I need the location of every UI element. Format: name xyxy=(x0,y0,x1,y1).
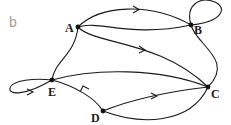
arrow-d-e xyxy=(80,86,89,92)
edge-a-c xyxy=(78,27,208,87)
edge-d-e xyxy=(52,80,103,111)
node-label-c: C xyxy=(211,87,220,101)
graph-diagram: b A B xyxy=(0,0,231,125)
node-labels: A B C D E xyxy=(48,21,220,125)
edge-e-c xyxy=(52,72,208,87)
node-label-d: D xyxy=(91,111,100,125)
node-a xyxy=(76,25,81,30)
node-d xyxy=(101,109,106,114)
edge-a-b-lower xyxy=(78,25,191,30)
edges xyxy=(10,0,222,119)
node-label-e: E xyxy=(48,85,56,99)
nodes xyxy=(50,23,211,114)
node-c xyxy=(206,85,211,90)
node-label-b: B xyxy=(194,23,202,37)
edge-b-self-loop xyxy=(190,0,222,25)
edge-d-c-lower xyxy=(103,87,208,120)
node-b xyxy=(189,23,194,28)
panel-label: b xyxy=(9,14,17,30)
node-label-a: A xyxy=(65,21,74,35)
node-e xyxy=(50,78,55,83)
